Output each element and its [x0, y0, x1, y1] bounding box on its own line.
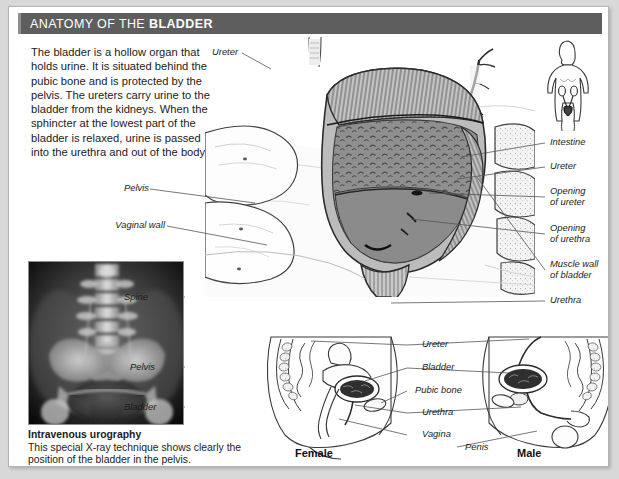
main-label-urethra: Urethra	[550, 294, 581, 305]
xray-graphic	[29, 262, 184, 425]
xray-label-bladder: Bladder	[124, 401, 156, 412]
cross-label-bladder: Bladder	[422, 361, 454, 372]
cross-label-ureter: Ureter	[422, 338, 448, 349]
xray-label-pelvis: Pelvis	[130, 361, 155, 372]
bladder-cutaway-scene	[205, 37, 535, 359]
main-label-intestine: Intestine	[550, 136, 585, 147]
main-label-ureter-top: Ureter	[212, 46, 238, 57]
cross-label-vagina: Vagina	[422, 428, 451, 439]
female-bladder	[335, 376, 379, 402]
female-label: Female	[295, 447, 333, 459]
male-label: Male	[517, 447, 541, 459]
cross-label-pubic-bone: Pubic bone	[415, 384, 462, 395]
xray-caption-text: This special X-ray technique shows clear…	[28, 442, 241, 466]
xray-image	[28, 261, 184, 425]
opening-of-ureter-line2: of ureter	[550, 196, 585, 207]
xray-label-spine: Spine	[124, 291, 148, 302]
male-cross-section	[483, 337, 609, 448]
muscle-wall-line1: Muscle wall	[550, 258, 598, 269]
body-inset-figure	[548, 41, 589, 131]
sacrum-right	[495, 124, 535, 295]
page-background: ANATOMY OF THE BLADDER The bladder is a …	[0, 0, 619, 479]
xray-caption: Intravenous urography This special X-ray…	[28, 429, 243, 467]
main-label-muscle-wall: Muscle wall of bladder	[550, 258, 598, 280]
female-cross-section	[267, 337, 397, 459]
cross-label-penis: Penis	[465, 441, 488, 452]
main-label-ureter-right: Ureter	[550, 160, 576, 171]
opening-of-urethra-line2: of urethra	[550, 233, 590, 244]
cross-label-urethra: Urethra	[422, 406, 453, 417]
male-bladder	[499, 365, 547, 393]
ureter-tube-right	[309, 37, 321, 67]
opening-of-ureter-line1: Opening	[550, 185, 585, 196]
content-card: ANATOMY OF THE BLADDER The bladder is a …	[8, 6, 609, 467]
xray-caption-title: Intravenous urography	[28, 429, 243, 442]
muscle-wall-line2: of bladder	[550, 269, 592, 280]
main-label-opening-of-urethra: Opening of urethra	[550, 222, 590, 244]
main-label-opening-of-ureter: Opening of ureter	[550, 185, 585, 207]
opening-of-urethra-line1: Opening	[550, 222, 585, 233]
ureter-opening-mark	[412, 190, 423, 195]
main-label-vaginal-wall: Vaginal wall	[97, 219, 165, 230]
main-label-pelvis: Pelvis	[105, 182, 149, 193]
